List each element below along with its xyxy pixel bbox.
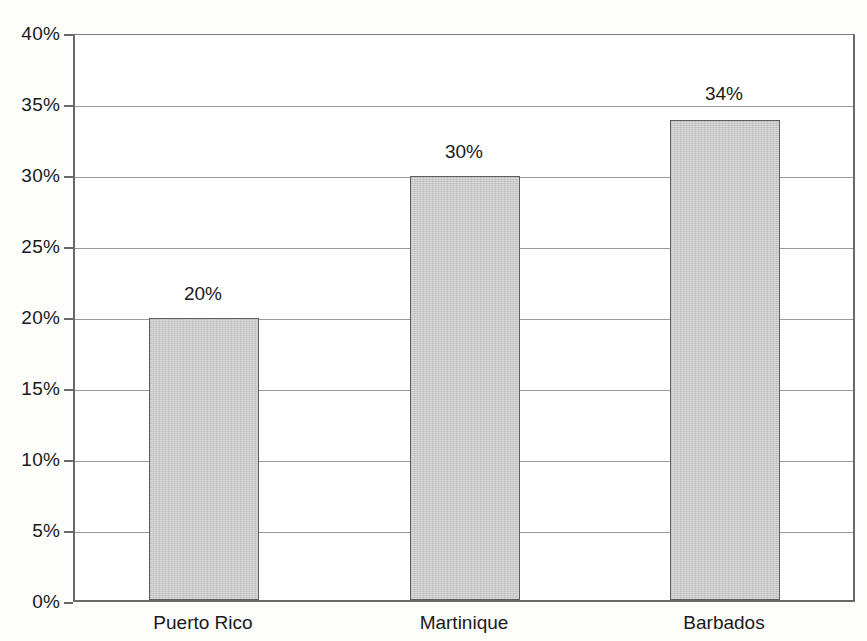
- category-label-barbados: Barbados: [683, 612, 764, 634]
- data-label-martinique: 30%: [445, 141, 483, 163]
- y-tick-label-0: 0%: [0, 591, 60, 613]
- category-label-martinique: Martinique: [420, 612, 509, 634]
- y-tick-mark-0: [64, 602, 73, 604]
- y-tick-label-20: 20%: [0, 307, 60, 329]
- plot-area: [73, 34, 855, 602]
- bar-barbados[interactable]: [670, 120, 780, 600]
- y-tick-label-5: 5%: [0, 520, 60, 542]
- y-axis: 40% 35% 30% 25% 20% 15% 10% 5% 0%: [0, 34, 67, 602]
- y-tick-label-10: 10%: [0, 449, 60, 471]
- chart-page: 40% 35% 30% 25% 20% 15% 10% 5% 0% 20%: [0, 0, 867, 641]
- y-tick-mark-35: [64, 105, 73, 107]
- y-tick-label-25: 25%: [0, 236, 60, 258]
- y-tick-mark-40: [64, 34, 73, 36]
- y-tick-mark-30: [64, 176, 73, 178]
- y-tick-label-35: 35%: [0, 94, 60, 116]
- y-tick-mark-20: [64, 318, 73, 320]
- gridline-35: [75, 106, 853, 107]
- data-label-puerto-rico: 20%: [184, 283, 222, 305]
- y-tick-label-40: 40%: [0, 23, 60, 45]
- y-tick-mark-15: [64, 389, 73, 391]
- y-tick-label-15: 15%: [0, 378, 60, 400]
- bar-puerto-rico[interactable]: [149, 318, 259, 601]
- data-label-barbados: 34%: [705, 83, 743, 105]
- y-tick-mark-10: [64, 460, 73, 462]
- y-tick-label-30: 30%: [0, 165, 60, 187]
- y-tick-mark-25: [64, 247, 73, 249]
- y-tick-mark-5: [64, 531, 73, 533]
- bar-martinique[interactable]: [410, 176, 520, 600]
- category-label-puerto-rico: Puerto Rico: [153, 612, 252, 634]
